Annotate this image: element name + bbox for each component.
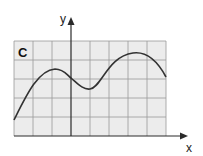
function-graph: C y x: [0, 0, 203, 156]
y-axis-label: y: [60, 12, 66, 26]
x-axis-arrow-icon: [180, 133, 188, 140]
panel-label: C: [18, 45, 28, 60]
y-axis-arrow-icon: [68, 17, 75, 25]
x-axis-label: x: [186, 141, 192, 155]
